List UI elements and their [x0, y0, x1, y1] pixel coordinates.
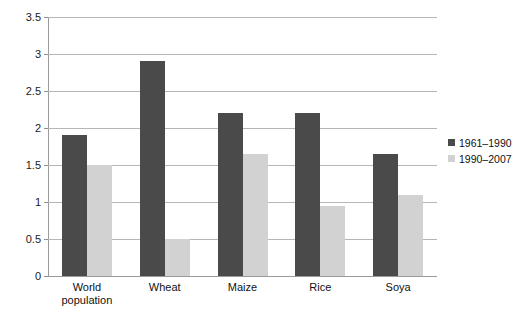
bar: [87, 165, 112, 276]
x-axis-category-label: Maize: [204, 281, 282, 294]
y-axis-tick-label: 2: [0, 123, 41, 134]
legend-item[interactable]: 1961–1990: [448, 136, 524, 149]
bar: [165, 239, 190, 276]
bar-group: [373, 17, 423, 276]
legend: 1961–19901990–2007: [448, 136, 524, 168]
bar: [398, 195, 423, 276]
gridline-0: [48, 276, 437, 277]
y-axis-tick-label: 1.5: [0, 160, 41, 171]
bar: [295, 113, 320, 276]
legend-label: 1961–1990: [459, 137, 512, 149]
legend-swatch-icon: [448, 139, 455, 146]
y-axis-tick-label: 1: [0, 197, 41, 208]
bar-group: [140, 17, 190, 276]
bar: [373, 154, 398, 276]
bar: [243, 154, 268, 276]
legend-swatch-icon: [448, 155, 455, 162]
plot-area: [48, 17, 437, 276]
y-axis-tick-label: 0: [0, 271, 41, 282]
legend-item[interactable]: 1990–2007: [448, 152, 524, 165]
y-axis-tick-label: 0.5: [0, 234, 41, 245]
x-axis-category-label: Wheat: [126, 281, 204, 294]
y-axis-tick-label: 3.5: [0, 12, 41, 23]
x-axis-category-label: World population: [48, 281, 126, 307]
bar: [140, 61, 165, 276]
bar-group: [218, 17, 268, 276]
x-axis-category-label: Rice: [281, 281, 359, 294]
bar-group: [295, 17, 345, 276]
bar: [218, 113, 243, 276]
bar-chart: 00.511.522.533.5 World populationWheatMa…: [0, 0, 526, 317]
legend-label: 1990–2007: [459, 153, 512, 165]
y-axis-tick-label: 3: [0, 49, 41, 60]
bar-group: [62, 17, 112, 276]
x-axis-category-label: Soya: [359, 281, 437, 294]
bar: [62, 135, 87, 276]
bar: [320, 206, 345, 276]
y-axis-tick-label: 2.5: [0, 86, 41, 97]
